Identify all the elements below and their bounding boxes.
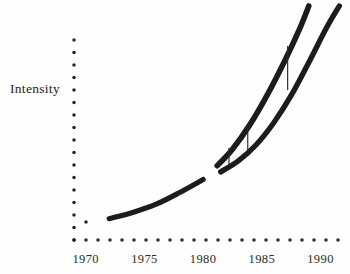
curve-common-stem [109, 179, 203, 218]
axis-dot [276, 238, 280, 242]
axis-dot [72, 101, 76, 105]
axis-dot [312, 238, 316, 242]
axis-dot [240, 238, 244, 242]
axis-dot [72, 113, 76, 117]
axis-dot [72, 51, 76, 55]
x-tick-label-1975: 1975 [131, 252, 158, 266]
axis-dot [72, 163, 76, 167]
axis-dot [288, 238, 292, 242]
axis-dot [156, 238, 160, 242]
axis-dot [300, 238, 304, 242]
chart-canvas: 19701975198019851990 Intensity [0, 0, 350, 274]
axis-dot [228, 238, 232, 242]
axis-dot [72, 226, 76, 230]
x-tick-label-1980: 1980 [190, 252, 217, 266]
axis-dot [84, 238, 88, 242]
axis-dot [192, 238, 196, 242]
x-tick-label-1990: 1990 [307, 252, 334, 266]
axis-dot [72, 213, 76, 217]
axis-dot [72, 238, 76, 242]
axis-dot [96, 238, 100, 242]
axis-dot [336, 238, 340, 242]
axis-dot [168, 238, 172, 242]
axis-dot [180, 238, 184, 242]
axis-dot [72, 138, 76, 142]
axis-dot [252, 238, 256, 242]
axis-dot [72, 38, 76, 42]
chart-figure: 19701975198019851990 Intensity [0, 0, 350, 274]
axis-dot [72, 176, 76, 180]
axis-dot [120, 238, 124, 242]
axis-dot [84, 220, 88, 224]
lower-curve-line [221, 6, 340, 172]
axis-dot [144, 238, 148, 242]
x-axis-tick-labels: 19701975198019851990 [72, 252, 333, 266]
axis-dot [72, 188, 76, 192]
axis-dot [72, 151, 76, 155]
axis-dot [72, 76, 76, 80]
x-tick-label-1970: 1970 [72, 252, 99, 266]
axis-dot [324, 238, 328, 242]
axis-dot [72, 63, 76, 67]
x-tick-label-1985: 1985 [249, 252, 276, 266]
axis-dot [204, 238, 208, 242]
y-axis-dotted-line [72, 38, 76, 242]
axis-dot [132, 238, 136, 242]
axis-dot [264, 238, 268, 242]
axis-dot [108, 238, 112, 242]
axis-dot [72, 126, 76, 130]
y-axis-title: Intensity [10, 81, 60, 96]
axis-dot [216, 238, 220, 242]
x-axis-dotted-line [72, 220, 340, 242]
axis-dot [72, 88, 76, 92]
axis-dot [72, 201, 76, 205]
